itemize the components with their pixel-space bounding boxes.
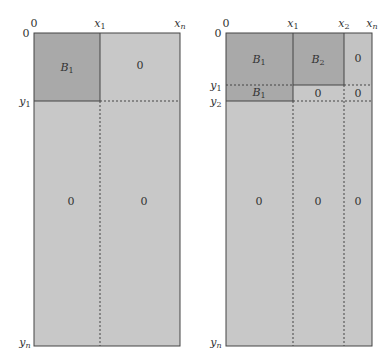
right-axis-xn: xn — [366, 17, 377, 31]
left-axis-x1: x1 — [94, 17, 105, 31]
left-cell-bottom-right-label: 0 — [141, 195, 148, 208]
left-cell-top-right-label: 0 — [137, 59, 144, 72]
left-axis-y-origin: 0 — [23, 27, 30, 40]
left-panel: 0 x1 xn 0 y1 yn B1 0 0 0 — [18, 17, 185, 350]
right-axis-y2: y2 — [209, 95, 221, 109]
right-cell-bottom-mid-label: 0 — [315, 195, 322, 208]
left-axis-x-origin: 0 — [31, 17, 38, 30]
right-cell-bottom-left-label: 0 — [256, 195, 263, 208]
block-matrix-diagram: 0 x1 xn 0 y1 yn B1 0 0 0 0 x1 x2 — [0, 0, 392, 359]
left-axis-xn: xn — [174, 17, 185, 31]
right-cell-bottom-right-label: 0 — [355, 195, 362, 208]
right-axis-x-origin: 0 — [223, 17, 230, 30]
right-cell-top-zero-label: 0 — [355, 52, 362, 65]
right-axis-y-origin: 0 — [215, 27, 222, 40]
left-axis-yn: yn — [18, 336, 30, 350]
left-axis-y1: y1 — [18, 95, 30, 109]
right-axis-x2: x2 — [338, 17, 349, 31]
right-axis-y1: y1 — [209, 79, 221, 93]
right-strip-zero-mid-label: 0 — [315, 87, 322, 100]
right-axis-yn: yn — [209, 336, 221, 350]
right-panel: 0 x1 x2 xn 0 y1 y2 yn B1 B2 0 B1 0 0 0 0… — [209, 17, 377, 350]
right-strip-zero-right-label: 0 — [355, 87, 362, 100]
left-cell-bottom-left-label: 0 — [68, 195, 75, 208]
right-axis-x1: x1 — [287, 17, 298, 31]
